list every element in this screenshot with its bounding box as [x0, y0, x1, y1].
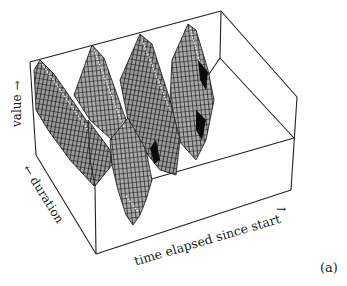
time-axis-arrow-icon: →: [276, 203, 286, 215]
value-axis-label: value →: [11, 81, 23, 127]
panel-label: (a): [320, 261, 338, 274]
